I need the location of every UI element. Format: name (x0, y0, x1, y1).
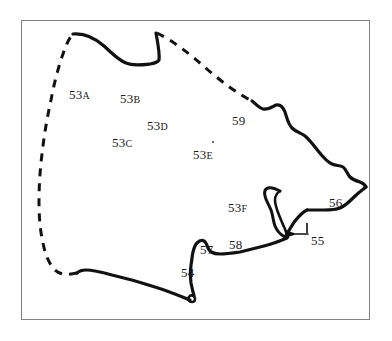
map-label-56-number: 56 (329, 195, 342, 210)
map-label-53e: 53E (193, 148, 213, 161)
map-label-53c-number: 53 (112, 135, 125, 150)
map-label-56: 56 (329, 196, 342, 209)
map-label-53d: 53D (147, 119, 168, 132)
map-label-53c-suffix: C (125, 138, 132, 149)
ink-speck-53e (212, 141, 214, 143)
map-label-53a-number: 53 (69, 87, 82, 102)
map-label-53c: 53C (112, 136, 132, 149)
map-label-53b: 53B (120, 92, 140, 105)
map-label-59: 59 (232, 114, 245, 127)
map-label-58: 58 (229, 238, 242, 251)
map-label-55-number: 55 (311, 233, 324, 248)
map-label-53e-number: 53 (193, 147, 206, 162)
map-label-53f-suffix: F (241, 203, 247, 214)
map-label-53a-suffix: A (82, 90, 89, 101)
arrowhead-55-icon (288, 231, 297, 237)
map-label-53d-suffix: D (160, 121, 167, 132)
boundary-northeast-dashed (157, 33, 252, 101)
coastline-top-solid (73, 33, 159, 65)
map-label-59-number: 59 (232, 113, 245, 128)
map-figure: 53A 53B 53C 53D 53E 53F 54 55 56 57 58 5… (0, 0, 392, 341)
map-label-57-number: 57 (200, 242, 213, 257)
map-label-54: 54 (181, 266, 194, 279)
coastline-southwest-solid (77, 270, 190, 300)
map-label-53f-number: 53 (228, 200, 241, 215)
map-label-58-number: 58 (229, 237, 242, 252)
map-label-53a: 53A (69, 88, 90, 101)
map-outline-svg (0, 0, 392, 341)
boundary-west-dashed (39, 34, 77, 274)
map-label-53b-suffix: B (133, 94, 140, 105)
map-label-53b-number: 53 (120, 91, 133, 106)
map-label-55: 55 (311, 234, 324, 247)
map-label-54-number: 54 (181, 265, 194, 280)
map-label-53d-number: 53 (147, 118, 160, 133)
map-label-53e-suffix: E (206, 150, 212, 161)
map-label-53f: 53F (228, 201, 247, 214)
coastline-east-solid (252, 101, 366, 187)
map-label-57: 57 (200, 243, 213, 256)
